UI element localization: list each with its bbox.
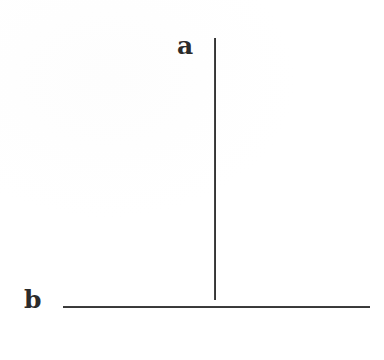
figure-canvas: a b	[0, 0, 384, 360]
label-b: b	[24, 287, 41, 312]
label-a: a	[177, 33, 193, 58]
vertical-line-a	[214, 38, 216, 300]
horizontal-line-b	[63, 306, 370, 308]
